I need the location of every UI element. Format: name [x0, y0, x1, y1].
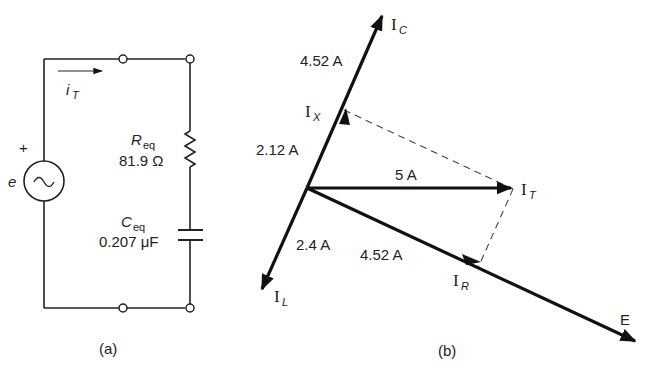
label-ix-subscript: X: [312, 111, 321, 123]
vector-ic: [307, 16, 382, 188]
terminal-bottom-left: [119, 304, 127, 312]
current-subscript: T: [72, 89, 80, 101]
label-ic-subscript: C: [399, 24, 407, 36]
diagram-canvas: + e i T R eq 81.9 Ω C eq 0.207 μF (a): [0, 0, 648, 373]
current-label: i: [66, 81, 70, 98]
magnitude-ix: 2.12 A: [256, 141, 299, 158]
label-ix: I: [305, 102, 311, 121]
terminal-top-left: [119, 55, 127, 63]
phasor-diagram: I C 4.52 A I X 2.12 A 5 A I T 2.4 A I L …: [256, 15, 635, 359]
caption-b: (b): [438, 342, 456, 359]
magnitude-ic: 4.52 A: [300, 52, 343, 69]
terminal-top-right: [186, 55, 194, 63]
magnitude-ir: 4.52 A: [360, 246, 403, 263]
label-ir: I: [453, 271, 459, 290]
capacitor-subscript: eq: [133, 221, 145, 233]
source-polarity: +: [19, 139, 28, 156]
resistor-icon: [185, 131, 195, 167]
magnitude-it: 5 A: [395, 166, 417, 183]
label-e: E: [620, 311, 630, 328]
magnitude-il: 2.4 A: [296, 236, 330, 253]
vector-e: [307, 188, 635, 341]
terminal-bottom-right: [186, 304, 194, 312]
label-it: I: [521, 180, 527, 199]
label-ic: I: [391, 15, 397, 34]
label-il: I: [274, 287, 280, 306]
dashed-projection-r: [478, 189, 513, 268]
source-label: e: [8, 173, 16, 190]
resistor-value: 81.9 Ω: [119, 152, 164, 169]
label-il-subscript: L: [282, 296, 288, 308]
capacitor-value: 0.207 μF: [99, 233, 159, 250]
resistor-subscript: eq: [143, 139, 155, 151]
resistor-symbol: R: [131, 131, 142, 148]
label-ir-subscript: R: [461, 280, 469, 292]
caption-a: (a): [99, 340, 117, 357]
dashed-projection-x: [344, 110, 513, 189]
circuit-diagram: + e i T R eq 81.9 Ω C eq 0.207 μF (a): [8, 55, 203, 357]
capacitor-symbol: C: [121, 213, 132, 230]
label-it-subscript: T: [529, 189, 537, 201]
